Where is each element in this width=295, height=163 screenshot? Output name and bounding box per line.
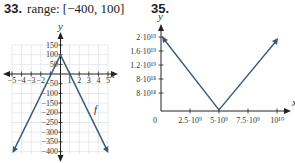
svg-text:−250: −250 xyxy=(41,118,58,127)
y-axis-arrow xyxy=(158,24,164,31)
chart-33: −5 −4 −3 −2 1 2 3 4 5 150 100 50 −50 −10… xyxy=(0,0,130,163)
svg-text:3: 3 xyxy=(87,76,91,85)
svg-text:−300: −300 xyxy=(41,128,58,137)
svg-text:100: 100 xyxy=(46,50,58,59)
svg-text:−400: −400 xyxy=(41,147,58,156)
svg-text:−350: −350 xyxy=(41,137,58,146)
x-axis-label: x xyxy=(291,96,295,108)
svg-text:10¹⁰: 10¹⁰ xyxy=(270,116,283,125)
x-tick-labels: 0 2.5·10⁹ 5·10⁹ 7.5·10⁹ 10¹⁰ xyxy=(153,116,284,125)
y-tick-labels: 150 100 50 −50 −100 −150 −200 −250 −300 … xyxy=(41,41,58,157)
svg-text:4: 4 xyxy=(96,76,100,85)
svg-text:150: 150 xyxy=(46,41,58,50)
svg-text:−3: −3 xyxy=(27,76,36,85)
x-axis-arrow xyxy=(284,108,291,114)
svg-text:2·10¹⁹: 2·10¹⁹ xyxy=(136,33,156,42)
y-axis-label: y xyxy=(57,20,63,32)
y-axis-arrow-down xyxy=(58,155,64,162)
svg-text:1.6·10¹⁹: 1.6·10¹⁹ xyxy=(130,47,156,56)
svg-text:0: 0 xyxy=(153,116,157,125)
svg-text:−4: −4 xyxy=(17,76,26,85)
svg-text:1.2·10¹⁹: 1.2·10¹⁹ xyxy=(130,61,156,70)
svg-text:5·10⁹: 5·10⁹ xyxy=(210,116,228,125)
svg-text:−150: −150 xyxy=(41,99,58,108)
svg-text:2.5·10⁹: 2.5·10⁹ xyxy=(178,116,202,125)
svg-text:−5: −5 xyxy=(8,76,17,85)
svg-text:−2: −2 xyxy=(37,76,46,85)
curve-arrow-left xyxy=(162,36,168,43)
axes xyxy=(161,28,287,111)
problem-35-header: 35. xyxy=(151,1,174,17)
y-tick-labels: 2·10¹⁹ 1.6·10¹⁹ 1.2·10¹⁹ 8·10¹⁸ 8·10¹⁸ xyxy=(130,33,156,98)
svg-text:2: 2 xyxy=(77,76,81,85)
y-axis-arrow-up xyxy=(58,32,64,39)
svg-text:7.5·10⁹: 7.5·10⁹ xyxy=(236,116,260,125)
problem-number: 35. xyxy=(151,1,169,16)
x-axis-label: x xyxy=(109,68,115,80)
curve-arrow-right xyxy=(272,38,278,45)
svg-text:−200: −200 xyxy=(41,108,58,117)
v-shaped-line xyxy=(163,38,277,110)
svg-text:8·10¹⁸: 8·10¹⁸ xyxy=(136,89,156,98)
svg-text:8·10¹⁸: 8·10¹⁸ xyxy=(136,75,156,84)
